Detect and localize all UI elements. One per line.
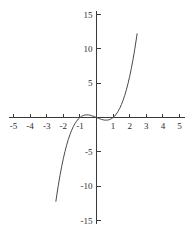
y-tick-label: -5	[85, 147, 93, 157]
x-tick-label: 2	[127, 121, 132, 131]
x-tick-label: -5	[10, 121, 18, 131]
x-tick-label: -3	[43, 121, 51, 131]
y-tick-label: 10	[84, 44, 94, 54]
x-tick-label: 5	[177, 121, 182, 131]
y-tick-label: 15	[84, 10, 94, 20]
x-tick-label: -1	[76, 121, 84, 131]
x-tick-label: -2	[60, 121, 68, 131]
x-tick-label: -4	[26, 121, 34, 131]
y-tick-label: 5	[88, 78, 93, 88]
y-tick-label: -10	[81, 181, 93, 191]
x-tick-label: 1	[111, 121, 116, 131]
y-tick-label: -15	[81, 216, 93, 226]
x-tick-label: 3	[144, 121, 149, 131]
cubic-function-plot: -5-4-3-2-112345 15105-5-10-15	[0, 0, 193, 235]
plot-canvas: -5-4-3-2-112345 15105-5-10-15	[0, 0, 193, 235]
x-tick-label: 4	[161, 121, 166, 131]
